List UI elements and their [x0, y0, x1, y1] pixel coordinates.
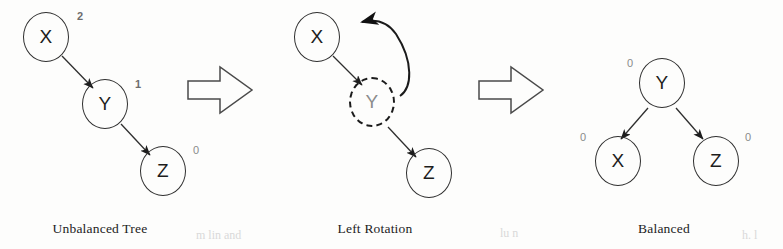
panel-balanced-tree: Y 0 X 0 Z 0 Balanced	[545, 0, 783, 249]
balance-factor-z: 0	[193, 144, 199, 156]
node-y-rotating: Y	[349, 77, 395, 127]
balance-factor-y: 0	[627, 57, 633, 69]
node-z-label: Z	[157, 160, 169, 182]
caption-unbalanced-tree: Unbalanced Tree	[0, 221, 200, 237]
scan-artifact-2: lu n	[500, 226, 518, 241]
node-y: Y	[82, 79, 128, 129]
node-y-label: Y	[98, 93, 111, 115]
node-x-label: X	[310, 26, 323, 48]
node-y: Y	[639, 58, 685, 108]
balance-factor-x: 0	[580, 131, 586, 143]
node-z-label: Z	[423, 162, 435, 184]
scan-artifact-3: h. l	[742, 228, 757, 243]
caption-left-rotation: Left Rotation	[270, 221, 480, 237]
panel-left-rotation: X Y Z Left Rotation	[270, 0, 480, 249]
panel-unbalanced-tree: X 2 Y 1 Z 0 Unbalanced Tree	[0, 0, 200, 249]
node-z-label: Z	[710, 150, 722, 172]
scan-artifact-1: m lin and	[196, 228, 241, 243]
node-x-label: X	[39, 26, 52, 48]
balance-factor-z: 0	[745, 131, 751, 143]
node-x: X	[595, 136, 641, 186]
block-arrow-right-icon-2	[477, 62, 547, 118]
balance-factor-y: 1	[135, 78, 141, 90]
balance-factor-x: 2	[77, 10, 83, 22]
node-x: X	[23, 12, 69, 62]
node-x-label: X	[611, 150, 624, 172]
avl-rotation-figure: X 2 Y 1 Z 0 Unbalanced Tree	[0, 0, 783, 249]
node-y-label: Y	[365, 91, 378, 113]
node-z: Z	[140, 146, 186, 196]
node-z: Z	[406, 148, 452, 198]
block-arrow-right-icon-1	[186, 62, 256, 118]
node-z: Z	[693, 136, 739, 186]
node-x: X	[294, 12, 340, 62]
node-y-label: Y	[655, 72, 668, 94]
